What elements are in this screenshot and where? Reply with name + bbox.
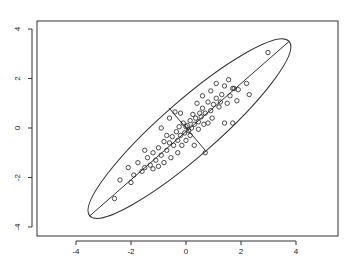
data-point bbox=[151, 151, 155, 155]
data-point bbox=[118, 178, 122, 182]
data-point bbox=[191, 112, 195, 116]
data-point bbox=[165, 133, 169, 137]
data-point bbox=[178, 111, 182, 115]
data-point bbox=[226, 78, 230, 82]
data-point bbox=[171, 143, 175, 147]
data-point bbox=[176, 151, 180, 155]
data-point bbox=[200, 106, 204, 110]
data-point bbox=[196, 127, 200, 131]
data-point bbox=[173, 110, 177, 114]
data-point bbox=[162, 160, 166, 164]
data-point bbox=[188, 118, 192, 122]
data-point bbox=[214, 96, 218, 100]
x-tick-label: -4 bbox=[72, 247, 80, 256]
data-point bbox=[169, 156, 173, 160]
data-point bbox=[200, 94, 204, 98]
data-point bbox=[167, 116, 171, 120]
data-point bbox=[266, 50, 270, 54]
data-point bbox=[129, 180, 133, 184]
data-point bbox=[206, 121, 210, 125]
data-point bbox=[156, 146, 160, 150]
data-point bbox=[225, 101, 229, 105]
data-point bbox=[192, 143, 196, 147]
data-point bbox=[222, 84, 226, 88]
y-tick-label: -2 bbox=[13, 173, 22, 181]
data-point bbox=[136, 160, 140, 164]
data-points bbox=[112, 50, 270, 200]
x-tick-label: 0 bbox=[184, 247, 189, 256]
data-point bbox=[145, 156, 149, 160]
data-point bbox=[244, 81, 248, 85]
data-point bbox=[211, 102, 215, 106]
data-point bbox=[170, 134, 174, 138]
data-point bbox=[188, 133, 192, 137]
x-axis: -4-2024 bbox=[72, 241, 298, 256]
y-tick-label: -4 bbox=[13, 223, 22, 231]
data-point bbox=[222, 121, 226, 125]
data-point bbox=[151, 167, 155, 171]
data-point bbox=[174, 130, 178, 134]
data-point bbox=[184, 138, 188, 142]
data-point bbox=[214, 81, 218, 85]
data-point bbox=[217, 105, 221, 109]
x-tick-label: -2 bbox=[127, 247, 135, 256]
data-point bbox=[220, 92, 224, 96]
data-point bbox=[235, 99, 239, 103]
data-point bbox=[126, 165, 130, 169]
y-tick-label: 2 bbox=[13, 76, 22, 81]
data-point bbox=[202, 122, 206, 126]
data-point bbox=[228, 94, 232, 98]
y-tick-label: 4 bbox=[13, 26, 22, 31]
data-point bbox=[156, 164, 160, 168]
data-point bbox=[167, 141, 171, 145]
data-point bbox=[195, 101, 199, 105]
scatter-plot: -4-2024 -4-2024 bbox=[0, 0, 354, 274]
y-tick-label: 0 bbox=[13, 125, 22, 130]
data-point bbox=[247, 92, 251, 96]
data-point bbox=[236, 87, 240, 91]
data-point bbox=[206, 100, 210, 104]
data-point bbox=[180, 143, 184, 147]
data-point bbox=[177, 125, 181, 129]
data-point bbox=[159, 126, 163, 130]
data-point bbox=[162, 139, 166, 143]
data-point bbox=[132, 173, 136, 177]
data-point bbox=[112, 196, 116, 200]
x-tick-label: 2 bbox=[239, 247, 244, 256]
data-point bbox=[210, 116, 214, 120]
data-point bbox=[143, 148, 147, 152]
y-axis: -4-2024 bbox=[13, 26, 32, 230]
x-tick-label: 4 bbox=[294, 247, 299, 256]
data-point bbox=[209, 89, 213, 93]
data-point bbox=[231, 121, 235, 125]
